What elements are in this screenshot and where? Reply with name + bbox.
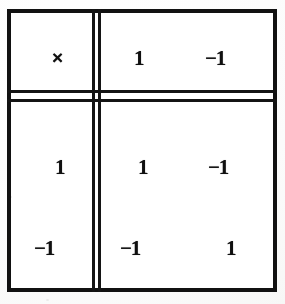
vertical-rule-outer — [92, 9, 95, 292]
row-header-2: −1 — [34, 238, 54, 259]
column-header-1: 1 — [134, 48, 145, 69]
table-cell-r1c2: −1 — [208, 157, 228, 178]
table-cell-r2c1: −1 — [120, 238, 140, 259]
row-header-1: 1 — [55, 157, 66, 178]
page-root: × 1 −1 1 1 −1 −1 −1 1 — [0, 0, 285, 304]
multiplication-sign-icon: × — [52, 48, 64, 67]
vertical-rule-inner — [98, 9, 101, 292]
column-header-2: −1 — [205, 48, 225, 69]
table-cell-r2c2: 1 — [226, 238, 237, 259]
horizontal-rule-lower — [7, 99, 277, 102]
horizontal-rule-upper — [7, 90, 277, 93]
table-cell-r1c1: 1 — [138, 157, 149, 178]
